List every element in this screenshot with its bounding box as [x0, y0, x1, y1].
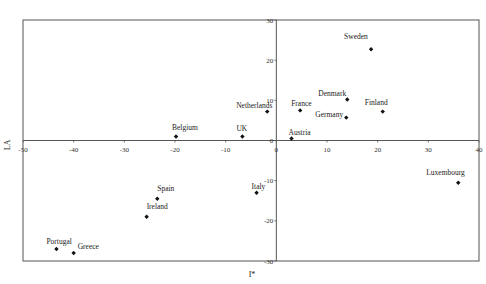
data-point: UK [236, 124, 247, 138]
data-point: Portugal [46, 237, 71, 251]
y-tick-label: 30 [266, 17, 274, 25]
x-tick-label: -50 [18, 146, 28, 154]
y-axis-title: LA [3, 139, 12, 150]
data-point: Denmark [318, 89, 349, 102]
data-point: Netherlands [236, 101, 272, 114]
x-tick-label: 40 [476, 146, 484, 154]
y-tick-label: -20 [264, 217, 274, 225]
data-point: Sweden [344, 32, 373, 51]
data-point: Finland [365, 98, 388, 114]
point-label: Austria [289, 128, 312, 137]
diamond-marker-icon [298, 108, 302, 112]
data-point: Luxembourg [426, 168, 465, 185]
point-label: Luxembourg [426, 168, 465, 177]
x-tick-label: -20 [170, 146, 180, 154]
x-tick-label: 30 [425, 146, 433, 154]
diamond-marker-icon [174, 134, 178, 138]
data-point: Germany [315, 110, 348, 120]
diamond-marker-icon [344, 115, 348, 119]
point-label: France [291, 99, 312, 108]
diamond-marker-icon [54, 247, 58, 251]
point-label: Finland [365, 98, 388, 107]
diamond-marker-icon [381, 109, 385, 113]
diamond-marker-icon [144, 215, 148, 219]
data-point: Italy [252, 182, 266, 195]
y-tick-label: -10 [264, 177, 274, 185]
diamond-marker-icon [155, 197, 159, 201]
diamond-marker-icon [254, 191, 258, 195]
y-tick-label: 0 [270, 137, 274, 145]
x-tick-label: 0 [275, 146, 279, 154]
y-tick-label: 20 [266, 57, 274, 65]
diamond-marker-icon [345, 97, 349, 101]
data-point: Belgium [172, 123, 198, 138]
point-label: Netherlands [236, 101, 272, 110]
point-label: Germany [315, 110, 343, 119]
point-label: Spain [157, 184, 174, 193]
diamond-marker-icon [71, 251, 75, 255]
data-point: Ireland [144, 202, 168, 219]
data-point: Greece [71, 242, 99, 255]
point-label: Greece [78, 242, 100, 251]
x-tick-label: 10 [324, 146, 332, 154]
scatter-chart: -50-40-30-20-10010203040-30-20-100102030… [0, 0, 486, 284]
data-points: SwedenDenmarkFinlandGermanyFranceNetherl… [46, 32, 465, 255]
diamond-marker-icon [240, 134, 244, 138]
x-tick-label: 20 [374, 146, 382, 154]
x-tick-label: -10 [221, 146, 231, 154]
point-label: UK [236, 124, 247, 133]
y-tick-label: -30 [264, 258, 274, 266]
diamond-marker-icon [369, 47, 373, 51]
point-label: Ireland [147, 202, 168, 211]
point-label: Denmark [318, 89, 346, 98]
point-label: Belgium [172, 123, 198, 132]
diamond-marker-icon [265, 109, 269, 113]
point-label: Portugal [46, 237, 71, 246]
diamond-marker-icon [456, 180, 460, 184]
point-label: Italy [252, 182, 266, 191]
x-tick-label: -40 [69, 146, 79, 154]
data-point: France [291, 99, 312, 112]
point-label: Sweden [344, 32, 368, 41]
axes [23, 20, 479, 261]
data-point: Spain [155, 184, 175, 201]
x-tick-label: -30 [120, 146, 130, 154]
data-point: Austria [289, 128, 312, 140]
x-axis-title: I* [249, 270, 256, 279]
